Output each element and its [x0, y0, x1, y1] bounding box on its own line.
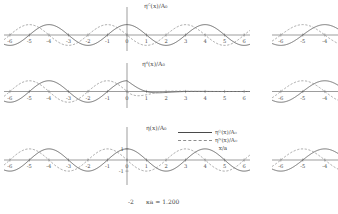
svg-text:-3: -3: [66, 95, 71, 101]
svg-text:-2: -2: [85, 163, 90, 169]
legend: ηᴳ(x)/A₀ ηᴺ(x)/A₀ x/a: [178, 128, 237, 152]
svg-text:-6: -6: [7, 163, 12, 169]
svg-text:6: 6: [242, 163, 245, 169]
legend-label-0: ηᴳ(x)/A₀: [215, 129, 237, 135]
svg-text:-6: -6: [7, 95, 12, 101]
svg-text:-5: -5: [27, 38, 32, 44]
svg-text:-6: -6: [278, 163, 283, 169]
panel-top-label: ηᴳ(x)/A₀: [144, 2, 167, 9]
svg-text:2: 2: [164, 163, 167, 169]
svg-text:-3: -3: [66, 163, 71, 169]
svg-text:-5: -5: [27, 163, 32, 169]
svg-text:-4: -4: [322, 163, 328, 169]
svg-text:-5: -5: [300, 163, 305, 169]
svg-text:-4: -4: [46, 38, 52, 44]
svg-text:4: 4: [203, 38, 207, 44]
side-panel-top: -6-5-4: [272, 18, 338, 60]
svg-text:-1: -1: [119, 168, 124, 174]
panel-bottom-label: η(x)/A₀: [146, 124, 166, 131]
svg-text:1: 1: [120, 146, 123, 152]
svg-text:-5: -5: [300, 38, 305, 44]
svg-text:4: 4: [203, 95, 207, 101]
svg-text:6: 6: [242, 38, 245, 44]
side-panel-bottom: -6-5-4: [272, 140, 338, 188]
svg-text:-1: -1: [105, 163, 110, 169]
svg-text:-3: -3: [66, 38, 71, 44]
side-panel-top-plot: -6-5-4: [272, 18, 338, 60]
svg-text:3: 3: [184, 38, 187, 44]
svg-text:-4: -4: [322, 38, 328, 44]
svg-text:1: 1: [145, 38, 148, 44]
svg-text:3: 3: [184, 163, 187, 169]
svg-text:-4: -4: [46, 95, 52, 101]
panel-top-plot: -6-5-4-3-2-10123456: [4, 18, 250, 60]
svg-text:-1: -1: [105, 38, 110, 44]
svg-text:-6: -6: [278, 95, 283, 101]
svg-text:-5: -5: [27, 95, 32, 101]
bottom-tick-label: -2: [128, 198, 134, 205]
legend-entry-0: ηᴳ(x)/A₀: [178, 128, 237, 136]
svg-text:6: 6: [242, 95, 245, 101]
svg-text:2: 2: [164, 95, 167, 101]
x-axis-label: x/a: [219, 145, 227, 151]
svg-text:3: 3: [184, 95, 187, 101]
svg-text:1: 1: [145, 163, 148, 169]
figure-canvas: ηᴳ(x)/A₀ -6-5-4-3-2-10123456 ηᵈ(x)/A₀ -6…: [0, 0, 338, 214]
svg-text:5: 5: [223, 38, 226, 44]
svg-text:-6: -6: [7, 38, 12, 44]
legend-swatch-dashed: [178, 140, 212, 141]
panel-middle-plot: -6-5-4-3-2-10123456: [4, 74, 250, 118]
legend-swatch-solid: [178, 132, 212, 133]
legend-axis-label-row: x/a: [178, 144, 237, 152]
svg-text:-4: -4: [46, 163, 52, 169]
svg-text:5: 5: [223, 163, 226, 169]
side-panel-middle: -6-5-4: [272, 74, 338, 118]
svg-text:-5: -5: [300, 95, 305, 101]
svg-text:-2: -2: [85, 38, 90, 44]
legend-label-1: ηᴺ(x)/A₀: [215, 137, 237, 143]
side-panel-middle-plot: -6-5-4: [272, 74, 338, 118]
svg-text:5: 5: [223, 95, 226, 101]
svg-text:1: 1: [145, 95, 148, 101]
svg-text:4: 4: [203, 163, 207, 169]
svg-text:-1: -1: [105, 95, 110, 101]
legend-entry-1: ηᴺ(x)/A₀: [178, 136, 237, 144]
svg-text:-4: -4: [322, 95, 328, 101]
svg-text:-6: -6: [278, 38, 283, 44]
panel-middle: -6-5-4-3-2-10123456: [4, 74, 250, 118]
svg-text:-2: -2: [85, 95, 90, 101]
svg-text:2: 2: [164, 38, 167, 44]
status-readout: κa = 1.200: [146, 198, 179, 205]
side-panel-bottom-plot: -6-5-4: [272, 140, 338, 188]
panel-middle-label: ηᵈ(x)/A₀: [142, 60, 165, 67]
panel-top: -6-5-4-3-2-10123456: [4, 18, 250, 60]
